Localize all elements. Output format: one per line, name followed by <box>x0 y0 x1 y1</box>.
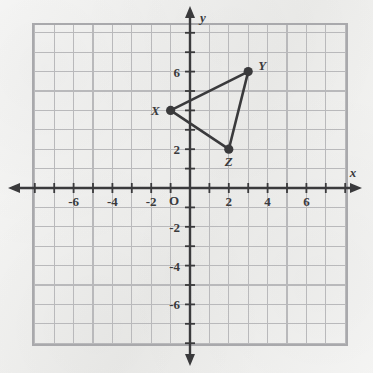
vertex-label-Y: Y <box>258 58 267 73</box>
x-axis-arrow-right <box>350 183 362 193</box>
x-tick-label: 2 <box>226 194 233 209</box>
y-tick-label: -6 <box>169 297 180 312</box>
origin-label: O <box>169 193 179 208</box>
axes <box>8 6 362 366</box>
y-tick-label: -4 <box>169 259 180 274</box>
figure-canvas: -6-4-224662-2-4-6 O x y XYZ <box>0 0 373 373</box>
x-axis-arrow-left <box>8 183 20 193</box>
vertex-dot-Z <box>224 145 233 154</box>
y-axis-arrow-down <box>185 354 195 366</box>
vertex-dot-Y <box>244 67 253 76</box>
y-tick-label: -2 <box>169 220 180 235</box>
y-axis-arrow-up <box>185 6 195 18</box>
x-tick-label: -2 <box>146 194 157 209</box>
y-tick-label: 6 <box>174 65 181 80</box>
x-tick-label: -6 <box>68 194 79 209</box>
y-tick-label: 2 <box>174 142 181 157</box>
vertex-dot-X <box>166 106 175 115</box>
coordinate-plane: -6-4-224662-2-4-6 O x y XYZ <box>0 0 373 373</box>
vertex-label-X: X <box>150 103 160 118</box>
y-axis-label: y <box>198 10 206 25</box>
x-axis-label: x <box>349 165 357 180</box>
x-tick-label: 6 <box>303 194 310 209</box>
vertex-label-Z: Z <box>224 154 233 169</box>
x-tick-label: -4 <box>107 194 118 209</box>
x-tick-label: 4 <box>264 194 271 209</box>
